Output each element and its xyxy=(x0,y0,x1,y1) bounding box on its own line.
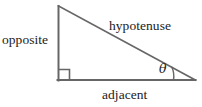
adjacent-side-label: adjacent xyxy=(102,88,147,102)
opposite-side-label: opposite xyxy=(2,33,48,47)
right-angle-square-icon xyxy=(59,70,70,81)
theta-angle-label: θ xyxy=(159,63,167,76)
triangle-figure-svg xyxy=(0,0,202,107)
triangle-diagram: opposite hypotenuse adjacent θ xyxy=(0,0,202,107)
hypotenuse-side-label: hypotenuse xyxy=(109,19,171,33)
